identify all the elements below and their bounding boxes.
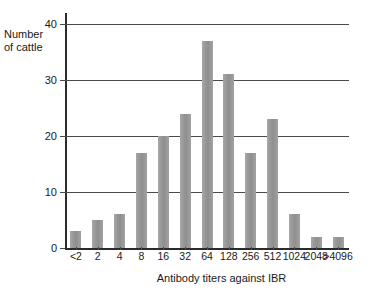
bar	[267, 119, 278, 248]
plot-area: 010203040	[65, 24, 349, 248]
x-tick-label: 128	[220, 250, 238, 262]
x-tick-label: 16	[157, 250, 169, 262]
x-tick-label: <2	[70, 250, 82, 262]
x-axis-title: Antibody titers against IBR	[0, 272, 371, 284]
y-tick-label: 30	[45, 74, 57, 86]
x-tick-label: 64	[201, 250, 213, 262]
bar	[180, 114, 191, 248]
x-tick-label: 32	[179, 250, 191, 262]
bar	[114, 214, 125, 248]
bar	[70, 231, 81, 248]
y-tick-mark	[60, 248, 65, 249]
bar	[202, 41, 213, 248]
bar	[245, 153, 256, 248]
x-tick-label-layer: <224816326412825651210242048>4096	[65, 250, 349, 266]
bar	[223, 74, 234, 248]
y-tick-label: 40	[45, 18, 57, 30]
y-tick-label: 0	[51, 242, 57, 254]
bar	[158, 136, 169, 248]
x-tick-label: 8	[139, 250, 145, 262]
bar	[92, 220, 103, 248]
y-axis-label: Number of cattle	[4, 28, 62, 54]
x-tick-label: 512	[264, 250, 282, 262]
x-tick-label: 1024	[283, 250, 306, 262]
bar	[136, 153, 147, 248]
bars-layer	[65, 24, 349, 248]
bar-chart-figure: Number of cattle 010203040 <224816326412…	[0, 0, 371, 294]
x-tick-label: 2	[95, 250, 101, 262]
y-tick-label: 20	[45, 130, 57, 142]
x-tick-label: >4096	[323, 250, 353, 262]
y-tick-label: 10	[45, 186, 57, 198]
bar	[289, 214, 300, 248]
x-tick-label: 256	[242, 250, 260, 262]
x-tick-label: 4	[117, 250, 123, 262]
